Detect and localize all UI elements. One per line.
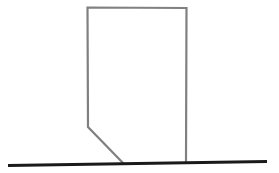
line-drawing-svg: Line drawing of a chamfered rectangular … xyxy=(0,0,279,173)
figure-canvas: Line drawing of a chamfered rectangular … xyxy=(0,0,279,173)
canvas-background xyxy=(0,0,279,173)
